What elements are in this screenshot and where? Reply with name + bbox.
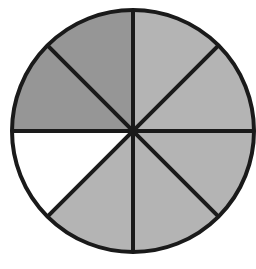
fraction-circle-figure	[0, 0, 256, 269]
pie-circle-svg	[0, 0, 256, 269]
